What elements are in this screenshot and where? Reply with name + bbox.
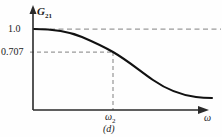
y-axis-label-text: G — [37, 5, 45, 17]
figure-container: G21 1.0 0.707 ω2 ω (d) — [0, 0, 222, 137]
response-curve — [34, 29, 212, 98]
x-axis-label: ω — [204, 113, 211, 123]
y-axis-label-subscript: 21 — [45, 12, 52, 20]
y-tick-label-cutoff: 0.707 — [1, 47, 24, 57]
y-axis-arrow-icon — [30, 5, 37, 14]
figure-caption: (d) — [103, 124, 115, 134]
y-tick-label-unity: 1.0 — [8, 24, 21, 34]
y-axis-label: G21 — [37, 6, 52, 20]
x-tick-label-omega2-text: ω — [105, 111, 112, 122]
